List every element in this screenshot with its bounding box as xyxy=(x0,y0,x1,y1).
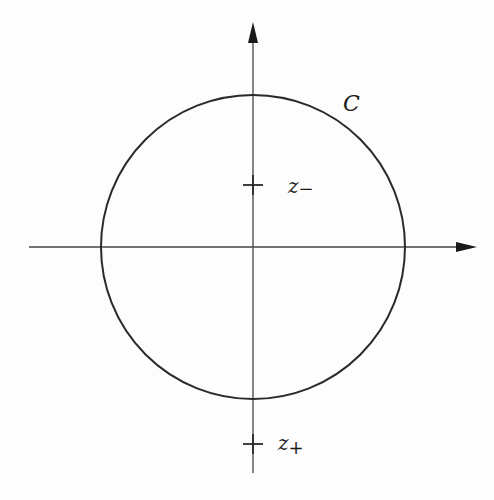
complex-plane-diagram: C z− z+ xyxy=(0,0,494,500)
contour-label: C xyxy=(343,91,360,116)
imaginary-axis-arrow-icon xyxy=(248,22,258,43)
z-minus-label: z− xyxy=(287,174,314,199)
z-plus-label: z+ xyxy=(277,431,304,458)
real-axis-arrow-icon xyxy=(456,242,477,252)
point-z-plus: z+ xyxy=(243,431,304,458)
